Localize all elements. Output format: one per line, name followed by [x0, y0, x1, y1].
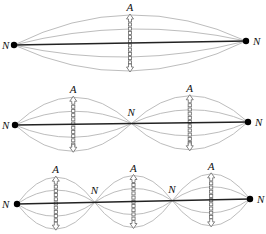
node-label: N: [167, 183, 176, 195]
node-label: N: [127, 106, 136, 118]
node-label: N: [1, 39, 10, 51]
panel-third-harmonic: AAANNNN: [1, 160, 265, 230]
node-label: N: [1, 119, 10, 131]
string-line: [15, 122, 248, 125]
antinode-label: A: [69, 83, 77, 95]
antinode-label: A: [185, 82, 193, 94]
standing-wave-diagram: ANNAANNNAAANNNN: [0, 0, 266, 234]
fixed-end-dot: [243, 38, 249, 44]
antinode-label: A: [129, 162, 137, 174]
antinode-label: A: [126, 1, 134, 13]
node-label: N: [254, 116, 263, 128]
fixed-end-dot: [11, 42, 17, 48]
antinode-label: A: [207, 160, 215, 172]
node-label: N: [256, 193, 265, 205]
panel-second-harmonic: AANNN: [1, 82, 263, 153]
fixed-end-dot: [12, 122, 18, 128]
fixed-end-dot: [14, 201, 20, 207]
fixed-end-dot: [247, 196, 253, 202]
node-label: N: [1, 198, 10, 210]
fixed-end-dot: [245, 119, 251, 125]
node-label: N: [252, 35, 261, 47]
node-label: N: [90, 184, 99, 196]
panel-first-harmonic: ANN: [1, 1, 261, 72]
antinode-label: A: [51, 163, 59, 175]
